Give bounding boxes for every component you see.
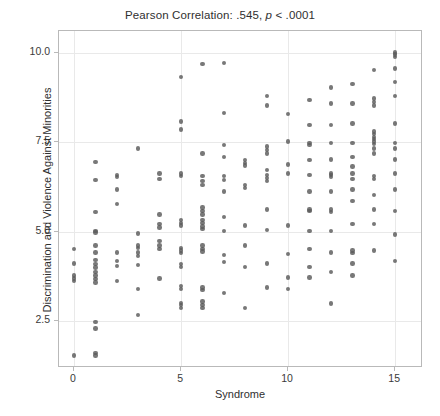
data-point xyxy=(243,223,247,227)
data-point xyxy=(179,171,183,175)
y-tick-mark xyxy=(54,52,58,53)
x-tick-mark xyxy=(394,367,395,371)
data-point xyxy=(329,270,333,274)
x-axis-label: Syndrome xyxy=(58,388,422,400)
data-point xyxy=(393,232,397,236)
data-point xyxy=(265,228,269,232)
data-point xyxy=(136,263,140,267)
data-point xyxy=(286,252,290,256)
data-point xyxy=(222,155,226,159)
data-point xyxy=(200,62,204,66)
data-point xyxy=(350,248,354,252)
data-point xyxy=(393,50,397,54)
data-point xyxy=(329,157,333,161)
data-point xyxy=(350,261,354,265)
data-point xyxy=(307,265,311,269)
data-point xyxy=(265,285,269,289)
data-point xyxy=(350,164,354,168)
chart-title: Pearson Correlation: .545, p < .0001 xyxy=(0,9,440,21)
data-point xyxy=(93,280,97,284)
chart-title-suffix: < .0001 xyxy=(272,9,315,21)
x-tick-mark xyxy=(180,367,181,371)
data-point xyxy=(350,82,354,86)
data-point xyxy=(200,183,204,187)
data-point xyxy=(243,265,247,269)
data-point xyxy=(393,121,397,125)
data-point xyxy=(200,285,204,289)
data-point xyxy=(372,103,376,107)
data-point xyxy=(307,229,311,233)
data-point xyxy=(93,210,97,214)
data-point xyxy=(157,177,161,181)
data-point xyxy=(222,143,226,147)
data-point xyxy=(115,250,119,254)
data-point xyxy=(372,96,376,100)
data-point xyxy=(115,187,119,191)
data-point xyxy=(115,264,119,268)
data-point xyxy=(93,320,97,324)
data-point xyxy=(200,299,204,303)
data-point xyxy=(72,247,76,251)
chart-title-prefix: Pearson Correlation: .545, xyxy=(125,9,266,21)
data-point xyxy=(350,273,354,277)
data-point xyxy=(372,222,376,226)
data-point xyxy=(393,141,397,145)
y-tick-mark xyxy=(54,320,58,321)
data-point xyxy=(222,253,226,257)
data-point xyxy=(350,199,354,203)
data-point xyxy=(179,127,183,131)
data-point xyxy=(329,189,333,193)
data-point xyxy=(393,66,397,70)
data-point xyxy=(350,121,354,125)
data-point xyxy=(93,250,97,254)
data-point xyxy=(222,189,226,193)
data-point xyxy=(350,222,354,226)
data-point xyxy=(93,265,97,269)
data-point xyxy=(286,223,290,227)
data-point xyxy=(200,151,204,155)
data-point xyxy=(286,275,290,279)
data-point xyxy=(93,262,97,266)
data-point xyxy=(286,287,290,291)
data-point xyxy=(179,75,183,79)
data-point xyxy=(372,151,376,155)
data-point xyxy=(286,162,290,166)
data-point xyxy=(200,179,204,183)
data-point xyxy=(93,326,97,330)
data-point xyxy=(393,80,397,84)
data-point xyxy=(179,119,183,123)
data-point xyxy=(115,259,119,263)
data-point xyxy=(393,157,397,161)
data-point xyxy=(265,207,269,211)
data-point xyxy=(72,273,76,277)
data-point xyxy=(222,61,226,65)
data-point xyxy=(243,306,247,310)
data-point xyxy=(265,151,269,155)
data-point xyxy=(136,146,140,150)
y-tick-mark xyxy=(54,231,58,232)
data-point xyxy=(372,248,376,252)
data-point xyxy=(265,103,269,107)
y-tick-mark xyxy=(54,141,58,142)
data-point xyxy=(350,171,354,175)
data-point xyxy=(307,173,311,177)
data-point xyxy=(222,111,226,115)
data-point xyxy=(329,101,333,105)
gridline-vertical xyxy=(288,31,289,366)
data-point xyxy=(157,239,161,243)
data-point xyxy=(93,270,97,274)
data-point xyxy=(329,207,333,211)
data-point xyxy=(136,231,140,235)
data-point xyxy=(157,222,161,226)
x-tick-mark xyxy=(73,367,74,371)
data-point xyxy=(157,171,161,175)
data-point xyxy=(393,171,397,175)
data-point xyxy=(200,205,204,209)
data-point xyxy=(393,146,397,150)
data-point xyxy=(372,193,376,197)
plot-area xyxy=(58,30,422,367)
data-point xyxy=(307,158,311,162)
data-point xyxy=(307,123,311,127)
data-point xyxy=(307,275,311,279)
data-point xyxy=(350,141,354,145)
